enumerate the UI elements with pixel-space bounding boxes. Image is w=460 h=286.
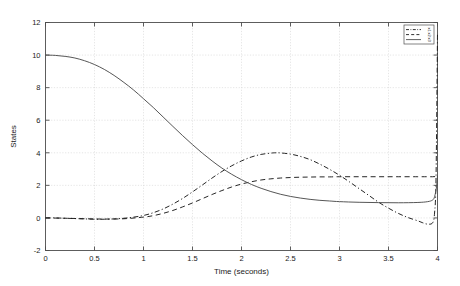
x-axis-label: Time (seconds) xyxy=(214,267,269,276)
y-tick-label: 4 xyxy=(36,149,40,158)
x-tick-label: 4 xyxy=(435,254,439,263)
x-tick-label: 3 xyxy=(337,254,341,263)
line-chart: 00.511.522.533.54 -2024681012 Time (seco… xyxy=(0,0,460,286)
y-tick-label: 2 xyxy=(36,181,40,190)
y-tick-label: 8 xyxy=(36,83,40,92)
y-tick-label: 0 xyxy=(36,214,40,223)
x-tick-label: 0 xyxy=(43,254,47,263)
x-tick-label: 1.5 xyxy=(187,254,197,263)
x-tick-label: 0.5 xyxy=(89,254,99,263)
figure-container: 00.511.522.533.54 -2024681012 Time (seco… xyxy=(0,0,460,286)
legend-box: x1x2x3 xyxy=(404,25,434,44)
y-axis-label: States xyxy=(9,125,18,148)
figure-background xyxy=(0,0,460,286)
x-tick-label: 3.5 xyxy=(383,254,393,263)
x-tick-label: 2 xyxy=(239,254,243,263)
y-tick-label: 6 xyxy=(36,116,40,125)
y-tick-label: -2 xyxy=(34,246,41,255)
x-tick-label: 2.5 xyxy=(285,254,295,263)
y-tick-label: 10 xyxy=(32,51,40,60)
y-tick-label: 12 xyxy=(32,18,40,27)
x-tick-label: 1 xyxy=(141,254,145,263)
